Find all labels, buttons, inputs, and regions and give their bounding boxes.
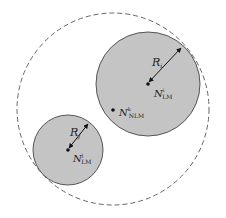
caption-cutoff	[0, 206, 226, 218]
large-center-dot	[146, 82, 150, 86]
small-center-dot	[66, 148, 70, 152]
neighborhood-diagram: Ri NiLM NkNLM Rj NjLM	[0, 0, 226, 218]
nlm-point	[111, 108, 115, 112]
